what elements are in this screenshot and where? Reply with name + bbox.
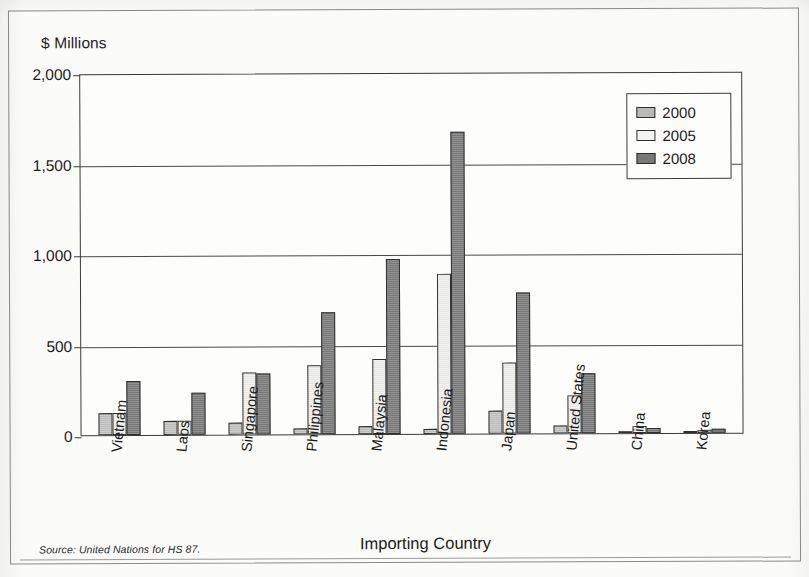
x-tick-label-wrap: Malaysia xyxy=(347,438,412,530)
legend-entry-2008: 2008 xyxy=(636,147,721,170)
x-axis-tick-labels: VietnamLaosSingaporePhilippinesMalaysiaI… xyxy=(81,437,744,532)
bar-2008-philippines xyxy=(321,312,335,434)
bar-group xyxy=(151,75,217,435)
bar-2008-laos xyxy=(192,393,206,435)
bar-group xyxy=(86,75,152,435)
y-tick-mark xyxy=(75,437,82,438)
y-tick-label: 0 xyxy=(64,428,73,446)
y-tick-label: 2,000 xyxy=(32,66,71,84)
y-axis-unit-label: $ Millions xyxy=(41,34,107,52)
divider xyxy=(20,557,791,561)
source-note: Source: United Nations for HS 87. xyxy=(39,543,201,556)
x-tick-label-wrap: Korea xyxy=(672,437,737,529)
y-tick-label: 1,500 xyxy=(33,156,72,174)
legend-entry-2005: 2005 xyxy=(636,124,721,147)
y-tick-mark xyxy=(74,166,81,167)
bar-2008-china xyxy=(646,428,660,433)
legend-entry-2000: 2000 xyxy=(636,101,721,124)
x-tick-label-wrap: Singapore xyxy=(217,438,282,530)
bar-2008-korea xyxy=(711,429,725,433)
x-tick-label-wrap: Japan xyxy=(477,437,542,529)
scanned-figure-page: $ Millions 05001,0001,5002,000 2000 2005… xyxy=(0,0,809,577)
y-tick-mark xyxy=(73,75,80,76)
legend-label-2005: 2005 xyxy=(662,127,695,144)
x-tick-label-wrap: Indonesia xyxy=(412,438,477,530)
x-tick-label-wrap: China xyxy=(607,437,672,529)
legend-swatch-2005-icon xyxy=(636,130,655,141)
bar-group xyxy=(346,74,412,434)
bar-group xyxy=(411,74,477,434)
x-tick-label-wrap: Laos xyxy=(152,439,217,531)
x-tick-label-wrap: United States xyxy=(542,437,607,529)
y-tick-mark xyxy=(74,347,81,348)
figure-outer-border: $ Millions 05001,0001,5002,000 2000 2005… xyxy=(8,7,801,564)
y-tick-mark xyxy=(74,256,81,257)
y-tick-label: 500 xyxy=(46,337,72,355)
x-tick-label-wrap: Vietnam xyxy=(87,439,152,531)
legend-label-2008: 2008 xyxy=(662,150,695,167)
bar-group xyxy=(476,73,542,433)
legend-swatch-2000-icon xyxy=(636,107,655,118)
x-tick-label-wrap: Philippines xyxy=(282,438,347,530)
bar-2008-vietnam xyxy=(127,381,141,435)
legend-label-2000: 2000 xyxy=(662,104,695,121)
legend-swatch-2008-icon xyxy=(636,153,655,164)
bar-group xyxy=(216,74,282,434)
y-tick-label: 1,000 xyxy=(33,247,72,265)
legend: 2000 2005 2008 xyxy=(626,93,731,179)
